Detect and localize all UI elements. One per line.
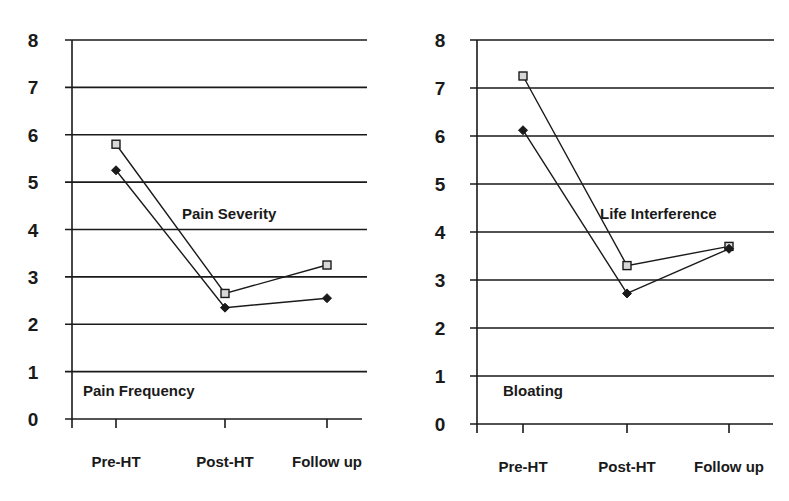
y-tick-label: 3 (435, 270, 446, 291)
annotation-label: Life Interference (600, 205, 717, 222)
annotation-label: Pain Frequency (83, 382, 195, 399)
y-tick-label: 7 (28, 77, 39, 98)
y-tick-label: 8 (435, 30, 446, 51)
y-tick-label: 1 (435, 366, 446, 387)
diamond-marker (519, 126, 528, 135)
y-tick-label: 4 (435, 222, 446, 243)
x-tick-label: Pre-HT (91, 453, 140, 470)
y-tick-label: 1 (28, 362, 39, 383)
square-marker (623, 262, 631, 270)
annotation-label: Pain Severity (182, 205, 277, 222)
y-tick-label: 8 (28, 30, 39, 51)
diamond-marker (323, 294, 332, 303)
y-tick-label: 6 (435, 126, 446, 147)
square-marker (112, 140, 120, 148)
square-marker (519, 72, 527, 80)
y-tick-label: 7 (435, 78, 446, 99)
chart-figure: 012345678Pre-HTPost-HTFollow upPain Seve… (0, 0, 789, 501)
y-tick-label: 4 (28, 220, 39, 241)
x-tick-label: Pre-HT (498, 458, 547, 475)
y-tick-label: 3 (28, 267, 39, 288)
y-tick-label: 5 (28, 172, 39, 193)
square-marker (323, 261, 331, 269)
x-tick-label: Follow up (292, 453, 362, 470)
y-tick-label: 5 (435, 174, 446, 195)
diamond-marker (623, 289, 632, 298)
series-line-pain-frequency (116, 170, 327, 307)
x-tick-label: Post-HT (196, 453, 254, 470)
x-tick-label: Post-HT (598, 458, 656, 475)
chart-panel-right: 012345678Pre-HTPost-HTFollow upLife Inte… (435, 30, 774, 475)
x-tick-label: Follow up (694, 458, 764, 475)
series-line-life-interference (523, 76, 729, 266)
y-tick-label: 2 (28, 314, 39, 335)
square-marker (221, 289, 229, 297)
chart-panel-left: 012345678Pre-HTPost-HTFollow upPain Seve… (28, 30, 367, 470)
y-tick-label: 6 (28, 125, 39, 146)
y-tick-label: 2 (435, 318, 446, 339)
annotation-label: Bloating (503, 382, 563, 399)
y-tick-label: 0 (435, 414, 446, 435)
y-tick-label: 0 (28, 409, 39, 430)
